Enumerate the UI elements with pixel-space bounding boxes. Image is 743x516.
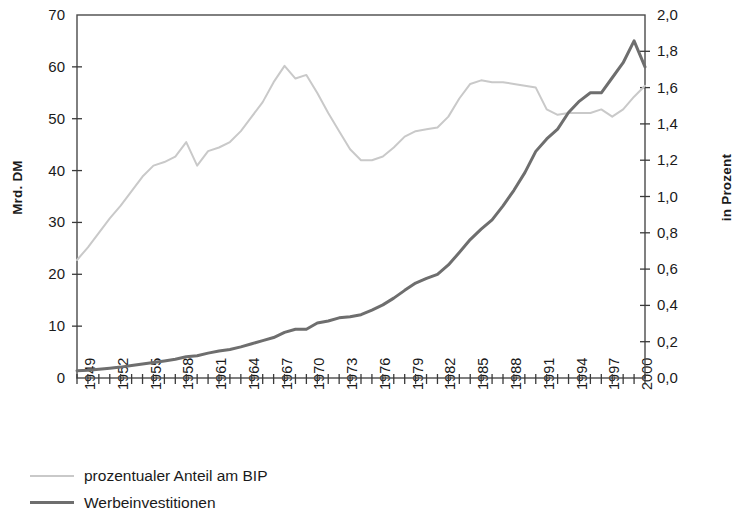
legend-label: Werbeinvestitionen [84,494,216,512]
legend-item: Werbeinvestitionen [30,489,530,516]
legend-item: prozentualer Anteil am BIP [30,462,530,489]
chart-legend: prozentualer Anteil am BIPWerbeinvestiti… [30,462,530,516]
plot-frame [77,15,645,378]
series-line-1 [77,66,645,260]
legend-label: prozentualer Anteil am BIP [84,467,268,485]
chart-figure: Mrd. DM in Prozent 010203040506070 0,00,… [0,0,743,516]
legend-swatch-line-icon [30,501,74,504]
legend-swatch-line-icon [30,475,74,477]
plot-area [0,0,743,516]
series-line-2 [77,41,645,371]
